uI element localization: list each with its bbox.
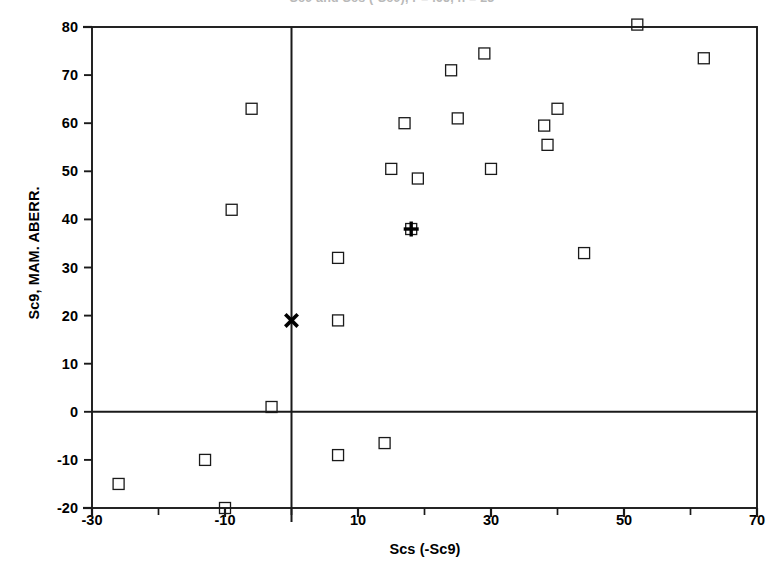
data-point-square [333,315,344,326]
data-point-square [452,113,463,124]
data-point-square [333,450,344,461]
data-point-square [379,438,390,449]
data-point-square [399,118,410,129]
data-point-square [333,252,344,263]
data-point-square [412,173,423,184]
zero-reference-lines [92,27,757,522]
data-point-square [552,103,563,114]
data-markers [113,19,709,513]
data-point-square [200,454,211,465]
scatter-chart-figure: Sc9 and Scs (-Sc9), r = .65, n = 23 Sc9,… [0,0,784,580]
plot-area [0,0,784,580]
data-point-square [542,139,553,150]
data-point-square [479,48,490,59]
data-point-square [632,19,643,30]
data-point-square [486,163,497,174]
data-point-square [113,478,124,489]
axis-ticks [83,27,757,517]
data-point-square [539,120,550,131]
data-point-square [226,204,237,215]
axis-frame [92,27,757,508]
data-point-square [386,163,397,174]
data-point-square [446,65,457,76]
data-point-square [579,248,590,259]
data-point-square [698,53,709,64]
data-point-square [246,103,257,114]
